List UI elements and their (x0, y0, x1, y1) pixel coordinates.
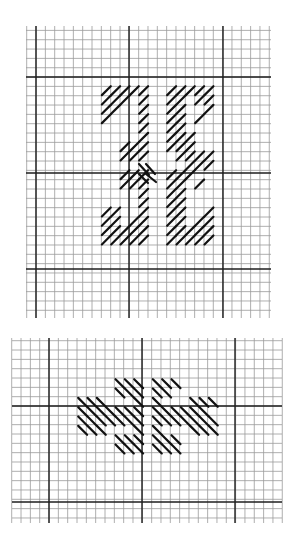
stitch (186, 170, 195, 179)
stitch (102, 86, 111, 95)
stitch (116, 389, 125, 398)
stitch (130, 142, 139, 151)
stitch (102, 96, 111, 105)
stitch (130, 152, 139, 161)
stitch (195, 226, 204, 235)
stitch (177, 114, 186, 123)
stitch (177, 152, 186, 161)
stitch (88, 407, 97, 416)
stitch (139, 198, 148, 207)
stitch (177, 189, 186, 198)
stitch (116, 407, 125, 416)
stitch (195, 114, 204, 123)
stitch (153, 407, 162, 416)
stitch (130, 226, 139, 235)
stitch (139, 235, 148, 244)
stitch (204, 86, 213, 95)
stitch (78, 426, 87, 435)
stitch (111, 105, 120, 114)
stitch (139, 86, 148, 95)
stitch (199, 417, 208, 426)
top-stitch-diagram (26, 26, 271, 318)
stitch (121, 170, 130, 179)
stitch (153, 379, 162, 388)
stitch (172, 379, 181, 388)
stitch (177, 226, 186, 235)
stitch (139, 96, 148, 105)
stitch (111, 217, 120, 226)
stitch (102, 217, 111, 226)
stitch (204, 235, 213, 244)
stitch (177, 217, 186, 226)
stitch (209, 417, 218, 426)
stitch (153, 417, 162, 426)
stitch (190, 407, 199, 416)
stitch (167, 226, 176, 235)
stitch (172, 407, 181, 416)
stitch (177, 207, 186, 216)
stitch (116, 445, 125, 454)
stitch (177, 105, 186, 114)
stitch (97, 417, 106, 426)
stitch (186, 226, 195, 235)
stitch (102, 226, 111, 235)
stitch (153, 389, 162, 398)
stitch (78, 417, 87, 426)
stitch (125, 407, 134, 416)
stitch (181, 407, 190, 416)
stitch (195, 161, 204, 170)
stitch (204, 217, 213, 226)
stitch (186, 142, 195, 151)
stitch (125, 417, 134, 426)
stitch (204, 96, 213, 105)
stitch (111, 86, 120, 95)
stitch (172, 417, 181, 426)
bottom-stitch-diagram (12, 338, 283, 523)
stitch (125, 379, 134, 388)
stitch (121, 152, 130, 161)
stitch (130, 217, 139, 226)
stitch (195, 235, 204, 244)
stitch (139, 152, 148, 161)
stitch (153, 426, 162, 435)
stitch (186, 152, 195, 161)
stitch (139, 217, 148, 226)
stitch (186, 133, 195, 142)
top-grid-fine-lines (26, 26, 271, 318)
stitch (199, 407, 208, 416)
bottom-grid-heavy-lines (12, 338, 282, 523)
stitch (172, 445, 181, 454)
stitch (177, 124, 186, 133)
stitch (167, 105, 176, 114)
stitch (78, 407, 87, 416)
stitch (181, 417, 190, 426)
stitch (204, 105, 213, 114)
stitch (139, 133, 148, 142)
bottom-stitches (78, 379, 218, 453)
stitch (190, 417, 199, 426)
stitch (139, 226, 148, 235)
stitch (162, 417, 171, 426)
stitch (139, 105, 148, 114)
stitch (209, 426, 218, 435)
stitch (167, 207, 176, 216)
stitch (125, 435, 134, 444)
stitch (195, 152, 204, 161)
stitch (190, 426, 199, 435)
stitch (167, 217, 176, 226)
stitch (167, 235, 176, 244)
stitch (177, 142, 186, 151)
stitch (199, 426, 208, 435)
stitch (102, 114, 111, 123)
stitch (162, 435, 171, 444)
stitch (139, 189, 148, 198)
stitch (139, 142, 148, 151)
stitch (186, 235, 195, 244)
stitch (121, 226, 130, 235)
stitch (177, 86, 186, 95)
stitch (177, 133, 186, 142)
stitch (88, 417, 97, 426)
stitch (204, 226, 213, 235)
stitch (204, 207, 213, 216)
stitch (162, 379, 171, 388)
